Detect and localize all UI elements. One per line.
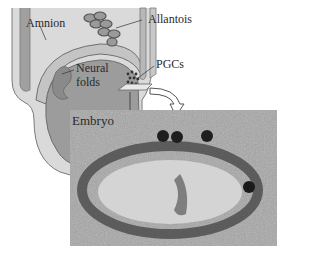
allantois-stalk [140,8,146,80]
micrograph [70,110,277,246]
label-allantois: Allantois [148,13,192,25]
pgc-cell-2 [171,131,183,143]
label-amnion: Amnion [26,17,65,29]
label-embryo: Embryo [72,114,114,127]
lumen [98,160,242,224]
label-neural: Neural [76,62,109,74]
label-pgcs: PGCs [156,58,184,70]
label-folds: folds [76,76,100,88]
pgc-cell-4 [243,181,255,193]
pgc-cell-3 [201,130,213,142]
micrograph-image [70,110,277,246]
pgc-cell-1 [157,130,169,142]
